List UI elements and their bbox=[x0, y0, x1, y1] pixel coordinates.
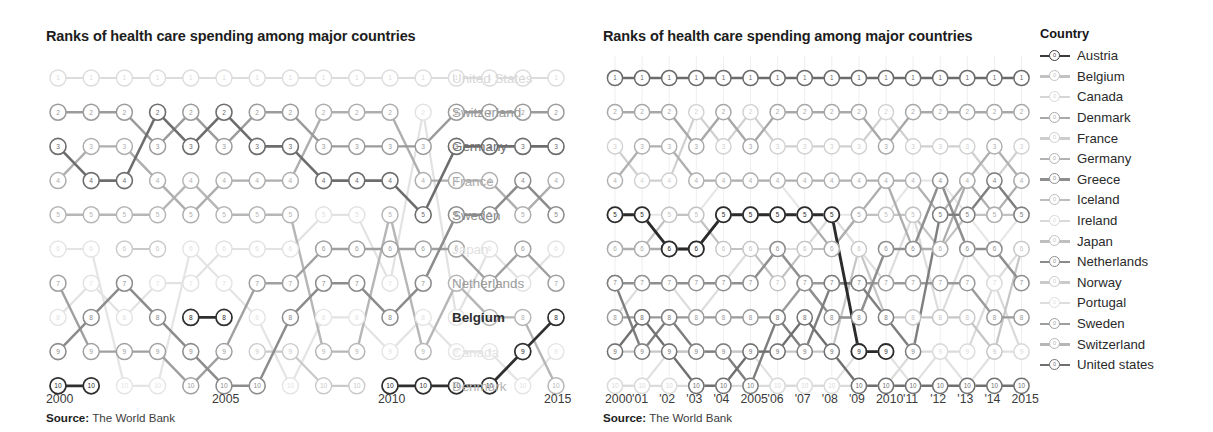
end-label-sweden[interactable]: Sweden bbox=[452, 207, 500, 222]
legend-item-switzerland[interactable]: 0Switzerland bbox=[1040, 334, 1145, 354]
legend-item-greece[interactable]: 0Greece bbox=[1040, 170, 1120, 190]
svg-text:10: 10 bbox=[54, 382, 62, 389]
right-chart-title: Ranks of health care spending among majo… bbox=[603, 28, 973, 44]
series-line[interactable] bbox=[619, 118, 1017, 181]
svg-text:1: 1 bbox=[776, 74, 780, 81]
end-label-japan[interactable]: Japan bbox=[452, 242, 488, 257]
series-line[interactable] bbox=[63, 112, 551, 209]
svg-text:10: 10 bbox=[937, 382, 945, 389]
svg-text:7: 7 bbox=[966, 279, 970, 286]
legend-item-japan[interactable]: 0Japan bbox=[1040, 231, 1113, 251]
svg-text:6: 6 bbox=[189, 245, 193, 252]
x-tick-label: '08 bbox=[822, 392, 838, 406]
end-label-canada[interactable]: Canada bbox=[452, 344, 499, 359]
left-bump-chart[interactable]: 6610106781088989910987877666557286761111… bbox=[0, 50, 600, 390]
svg-text:3: 3 bbox=[521, 143, 525, 150]
svg-text:5: 5 bbox=[911, 211, 915, 218]
svg-text:6: 6 bbox=[857, 245, 861, 252]
svg-text:10: 10 bbox=[187, 382, 195, 389]
svg-text:7: 7 bbox=[884, 279, 888, 286]
svg-text:1: 1 bbox=[911, 74, 915, 81]
legend-item-label: Ireland bbox=[1077, 213, 1117, 228]
legend-item-france[interactable]: 0France bbox=[1040, 128, 1118, 148]
svg-text:1: 1 bbox=[695, 74, 699, 81]
right-chart-panel: Ranks of health care spending among majo… bbox=[598, 0, 1038, 432]
svg-text:9: 9 bbox=[884, 348, 888, 355]
series-line[interactable] bbox=[619, 323, 1014, 386]
svg-text:6: 6 bbox=[1020, 245, 1024, 252]
svg-text:8: 8 bbox=[554, 314, 558, 321]
svg-text:4: 4 bbox=[123, 177, 127, 184]
svg-text:4: 4 bbox=[89, 177, 93, 184]
svg-text:1: 1 bbox=[388, 74, 392, 81]
legend-item-ireland[interactable]: 0Ireland bbox=[1040, 211, 1117, 231]
legend-marker-icon: 0 bbox=[1040, 49, 1070, 63]
end-label-united-states[interactable]: United States bbox=[452, 71, 532, 86]
legend-item-canada[interactable]: 0Canada bbox=[1040, 87, 1123, 107]
svg-text:1: 1 bbox=[554, 74, 558, 81]
svg-text:1: 1 bbox=[830, 74, 834, 81]
legend-item-norway[interactable]: 0Norway bbox=[1040, 273, 1122, 293]
svg-text:1: 1 bbox=[857, 74, 861, 81]
legend-item-label: Switzerland bbox=[1077, 337, 1145, 352]
legend-item-label: Greece bbox=[1077, 172, 1120, 187]
svg-text:10: 10 bbox=[720, 382, 728, 389]
svg-text:9: 9 bbox=[993, 348, 997, 355]
series-nodes[interactable]: 8778766656758676 bbox=[607, 207, 1029, 325]
svg-text:5: 5 bbox=[521, 211, 525, 218]
end-label-germany[interactable]: Germany bbox=[452, 139, 507, 154]
svg-text:7: 7 bbox=[189, 280, 193, 287]
svg-text:6: 6 bbox=[993, 245, 997, 252]
svg-text:5: 5 bbox=[966, 211, 970, 218]
svg-text:5: 5 bbox=[322, 211, 326, 218]
legend-item-portugal[interactable]: 0Portugal bbox=[1040, 293, 1126, 313]
right-bump-chart[interactable]: 5555444555544565101099991010109910910998… bbox=[598, 50, 1038, 390]
series-line[interactable] bbox=[619, 220, 1017, 312]
svg-text:3: 3 bbox=[640, 143, 644, 150]
svg-text:6: 6 bbox=[89, 245, 93, 252]
svg-text:8: 8 bbox=[993, 314, 997, 321]
svg-text:10: 10 bbox=[154, 382, 162, 389]
svg-text:3: 3 bbox=[89, 143, 93, 150]
end-label-france[interactable]: France bbox=[452, 173, 494, 188]
legend-item-label: United states bbox=[1077, 357, 1154, 372]
series-line[interactable] bbox=[622, 186, 1017, 249]
legend-item-belgium[interactable]: 0Belgium bbox=[1040, 67, 1125, 87]
legend-item-denmark[interactable]: 0Denmark bbox=[1040, 108, 1131, 128]
series-line[interactable] bbox=[622, 112, 1015, 141]
legend-item-label: Germany bbox=[1077, 151, 1131, 166]
svg-text:4: 4 bbox=[640, 177, 644, 184]
legend-item-label: Canada bbox=[1077, 89, 1123, 104]
svg-text:2: 2 bbox=[640, 108, 644, 115]
legend-item-germany[interactable]: 0Germany bbox=[1040, 149, 1131, 169]
svg-text:10: 10 bbox=[855, 382, 863, 389]
svg-text:9: 9 bbox=[749, 348, 753, 355]
series-line[interactable] bbox=[63, 117, 549, 209]
legend-item-sweden[interactable]: 0Sweden bbox=[1040, 314, 1125, 334]
svg-text:5: 5 bbox=[830, 211, 834, 218]
series-line[interactable] bbox=[622, 352, 1015, 386]
svg-text:2: 2 bbox=[289, 109, 293, 116]
series-line[interactable] bbox=[622, 215, 1015, 278]
svg-text:2: 2 bbox=[222, 109, 226, 116]
svg-text:9: 9 bbox=[803, 348, 807, 355]
svg-text:10: 10 bbox=[747, 382, 755, 389]
legend-item-iceland[interactable]: 0Iceland bbox=[1040, 190, 1120, 210]
end-label-switzerland[interactable]: Switzerland bbox=[452, 105, 521, 120]
svg-text:5: 5 bbox=[156, 211, 160, 218]
end-label-belgium[interactable]: Belgium bbox=[452, 310, 505, 325]
svg-text:6: 6 bbox=[966, 245, 970, 252]
legend-item-united-states[interactable]: 0United states bbox=[1040, 355, 1154, 375]
svg-text:3: 3 bbox=[222, 143, 226, 150]
x-tick-label: 2000 bbox=[46, 392, 73, 406]
svg-text:1: 1 bbox=[722, 74, 726, 81]
legend-item-austria[interactable]: 0Austria bbox=[1040, 46, 1118, 66]
svg-text:4: 4 bbox=[156, 177, 160, 184]
svg-text:6: 6 bbox=[322, 245, 326, 252]
legend-item-netherlands[interactable]: 0Netherlands bbox=[1040, 252, 1148, 272]
svg-text:4: 4 bbox=[803, 177, 807, 184]
svg-text:10: 10 bbox=[693, 382, 701, 389]
svg-text:9: 9 bbox=[857, 348, 861, 355]
end-label-netherlands[interactable]: Netherlands bbox=[452, 276, 524, 291]
svg-text:5: 5 bbox=[123, 211, 127, 218]
